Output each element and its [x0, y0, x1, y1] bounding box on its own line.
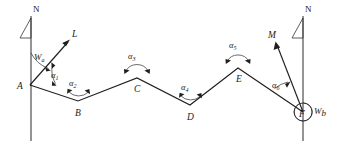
- alpha2-arc: [69, 92, 89, 96]
- ray-line-M: [277, 45, 303, 112]
- alpha3-arrowhead-left: [124, 69, 130, 74]
- station-label-C: C: [134, 84, 141, 94]
- alpha1-arrowhead-top: [51, 62, 55, 69]
- station-label-F: F: [298, 109, 305, 119]
- wa-label: Wa: [34, 52, 45, 63]
- alpha1-label: α1: [51, 70, 58, 81]
- alpha4-label: α4: [181, 82, 188, 93]
- ray-label-L: L: [71, 29, 77, 39]
- bearing-arc-Wa: Wa: [31, 52, 51, 72]
- angle-alpha-4: α4: [179, 82, 202, 100]
- diagram-canvas: N N L M Wa: [0, 0, 345, 145]
- ray-arrowhead-M: [274, 42, 281, 51]
- north-reference-right: N: [292, 4, 312, 141]
- angle-alpha-3: α3: [124, 51, 150, 74]
- alpha5-label: α5: [229, 40, 236, 51]
- alpha3-label: α3: [128, 51, 135, 62]
- north-label-left: N: [33, 4, 40, 14]
- alpha3-arrowhead-right: [144, 69, 150, 74]
- alpha5-arrowhead-right: [245, 59, 251, 64]
- alpha6-label: α6: [272, 80, 279, 91]
- alpha2-label: α2: [69, 78, 76, 89]
- north-arrow-head-left: [20, 18, 31, 38]
- wb-label: Wb: [314, 106, 327, 118]
- station-label-B: B: [75, 108, 81, 118]
- angle-alpha-2: α2: [67, 78, 90, 96]
- wa-arc-arrowhead: [45, 67, 51, 72]
- angle-alpha-6: α6: [272, 80, 290, 91]
- station-label-A: A: [16, 81, 23, 91]
- angle-alpha-1: α1: [51, 62, 58, 86]
- ray-arrowhead-L: [62, 40, 70, 47]
- station-label-E: E: [235, 74, 242, 84]
- station-labels: A B C D E F: [16, 74, 305, 122]
- north-reference-left: N: [20, 4, 40, 141]
- angle-alpha-5: α5: [226, 40, 251, 64]
- alpha5-arrowhead-left: [226, 59, 232, 64]
- traverse-diagram-figure: N N L M Wa: [0, 0, 345, 145]
- north-label-right: N: [305, 4, 312, 14]
- ray-label-M: M: [267, 30, 277, 40]
- north-arrow-head-right: [292, 18, 303, 38]
- ray-line-L: [30, 42, 68, 85]
- station-label-D: D: [186, 112, 194, 122]
